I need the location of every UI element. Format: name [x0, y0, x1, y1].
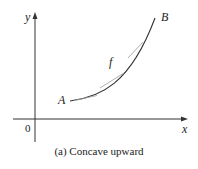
y-axis-label: y [25, 11, 30, 23]
function-label: f [109, 56, 112, 68]
x-axis-arrow-icon [181, 117, 188, 122]
point-b-label: B [161, 11, 168, 23]
point-a-label: A [58, 94, 65, 106]
origin-label: 0 [25, 123, 31, 134]
tangent-line [74, 96, 97, 101]
tangent-line [100, 73, 124, 88]
function-curve [70, 18, 155, 101]
y-axis-arrow-icon [33, 12, 38, 19]
figure-caption: (a) Concave upward [0, 145, 198, 157]
concave-upward-diagram [0, 0, 198, 169]
x-axis-label: x [182, 123, 187, 135]
